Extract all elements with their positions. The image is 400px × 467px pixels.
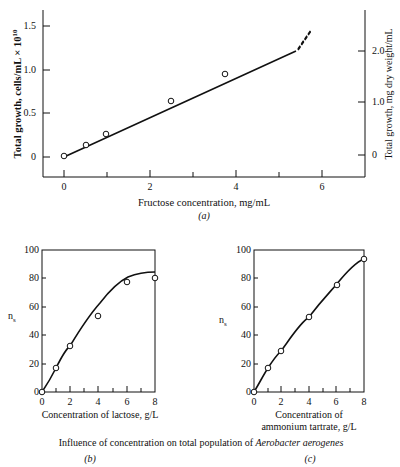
tick-label: 0 xyxy=(252,396,257,407)
chart-b-panel-label: (b) xyxy=(84,453,96,465)
tick-label: 0 xyxy=(34,386,39,397)
tick-label: 6 xyxy=(320,181,325,192)
tick-label: 40 xyxy=(241,329,251,340)
tick-label: 2 xyxy=(279,396,284,407)
tick-label: 2 xyxy=(148,181,153,192)
tick-label: 20 xyxy=(29,358,39,369)
chart-b-ylabel: ns xyxy=(8,310,16,324)
tick-label: 100 xyxy=(236,244,251,255)
tick-label: 40 xyxy=(29,329,39,340)
chart-a-panel-label: (a) xyxy=(198,210,210,222)
chart-a-ylabel: Total growth, cells/mL × 1010 xyxy=(11,29,23,158)
chart-c-curve xyxy=(254,259,364,392)
chart-b xyxy=(39,250,158,395)
chart-a-fit-line xyxy=(64,51,296,157)
tick-label: 4 xyxy=(96,396,101,407)
chart-b-xlabel: Concentration of lactose, g/L xyxy=(42,409,159,420)
tick-label: 0.5 xyxy=(24,107,37,118)
chart-a xyxy=(43,10,365,177)
figure-caption: Influence of concentration on total popu… xyxy=(59,437,344,448)
figure: 0 0.5 1.0 1.5 0 1.0 2.0 0 2 4 6 Fructose… xyxy=(0,0,400,467)
tick-label: 0 xyxy=(62,181,67,192)
tick-label: 6 xyxy=(125,396,130,407)
chart-c-panel-label: (c) xyxy=(304,453,316,465)
tick-label: 80 xyxy=(29,272,39,283)
tick-label: 0 xyxy=(31,151,36,162)
chart-b-points xyxy=(39,275,158,395)
tick-label: 4 xyxy=(307,396,312,407)
chart-c-labels: 0 20 40 60 80 100 0 2 4 6 8 Concentratio… xyxy=(219,244,367,465)
chart-a-points xyxy=(61,71,228,159)
chart-a-y2label: Total growth, mg dry weight/mL xyxy=(383,28,394,159)
chart-c xyxy=(251,250,367,395)
chart-c-ylabel: ns xyxy=(219,314,227,328)
chart-b-curve xyxy=(42,272,155,392)
tick-label: 6 xyxy=(334,396,339,407)
tick-label: 1.0 xyxy=(24,64,37,75)
tick-label: 60 xyxy=(29,301,39,312)
chart-c-xlabel-line2: ammonium tartrate, g/L xyxy=(261,421,356,432)
chart-c-xlabel-line1: Concentration of xyxy=(275,409,343,420)
tick-label: 1.5 xyxy=(24,20,37,31)
tick-label: 80 xyxy=(241,272,251,283)
tick-label: 0 xyxy=(246,386,251,397)
tick-label: 20 xyxy=(241,358,251,369)
tick-label: 8 xyxy=(153,396,158,407)
tick-label: 0 xyxy=(40,396,45,407)
tick-label: 100 xyxy=(24,244,39,255)
chart-c-points xyxy=(251,256,367,395)
tick-label: 2 xyxy=(68,396,73,407)
tick-label: 4 xyxy=(234,181,239,192)
chart-a-xlabel: Fructose concentration, mg/mL xyxy=(138,197,270,208)
chart-a-labels: 0 0.5 1.0 1.5 0 1.0 2.0 0 2 4 6 Fructose… xyxy=(11,20,394,222)
chart-b-frame xyxy=(42,250,155,392)
chart-b-labels: 0 20 40 60 80 100 0 2 4 6 8 Concentratio… xyxy=(8,244,158,465)
tick-label: 0 xyxy=(372,149,377,160)
tick-label: 60 xyxy=(241,301,251,312)
tick-label: 8 xyxy=(362,396,367,407)
